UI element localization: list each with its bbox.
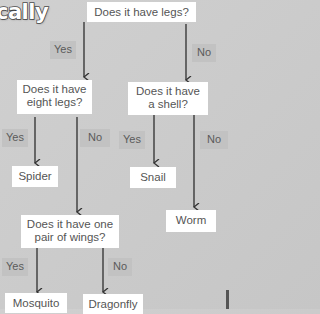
question-text-line1: Does it have — [19, 83, 90, 96]
question-text-line2: eight legs? — [19, 96, 90, 109]
question-one-pair-wings: Does it have one pair of wings? — [21, 215, 119, 248]
result-text: Mosquito — [13, 297, 60, 309]
result-snail: Snail — [130, 167, 176, 188]
edge-label-yes: Yes — [2, 258, 28, 276]
result-mosquito: Mosquito — [5, 293, 67, 313]
question-text-line1: Does it have one — [23, 218, 117, 231]
edge-label-no: No — [108, 258, 132, 276]
edge-label-yes: Yes — [2, 129, 28, 147]
question-has-legs: Does it have legs? — [87, 2, 196, 22]
result-text: Dragonfly — [88, 298, 137, 310]
result-text: Worm — [176, 214, 206, 226]
question-text-line2: a shell? — [130, 98, 206, 111]
edge-label-yes: Yes — [119, 131, 145, 149]
result-worm: Worm — [166, 210, 216, 232]
question-eight-legs: Does it have eight legs? — [17, 80, 92, 114]
question-has-shell: Does it have a shell? — [128, 82, 208, 115]
edge-label-no: No — [192, 44, 216, 62]
result-spider: Spider — [12, 166, 58, 187]
edge-label-yes: Yes — [50, 41, 76, 59]
question-text: Does it have legs? — [94, 6, 189, 18]
edge-label-no: No — [80, 129, 110, 147]
result-text: Snail — [140, 171, 166, 183]
edge-label-no: No — [200, 131, 228, 149]
question-text-line1: Does it have — [130, 85, 206, 98]
result-text: Spider — [18, 170, 51, 182]
page-edge — [226, 290, 229, 309]
result-dragonfly: Dragonfly — [83, 294, 143, 314]
question-text-line2: pair of wings? — [23, 231, 117, 244]
